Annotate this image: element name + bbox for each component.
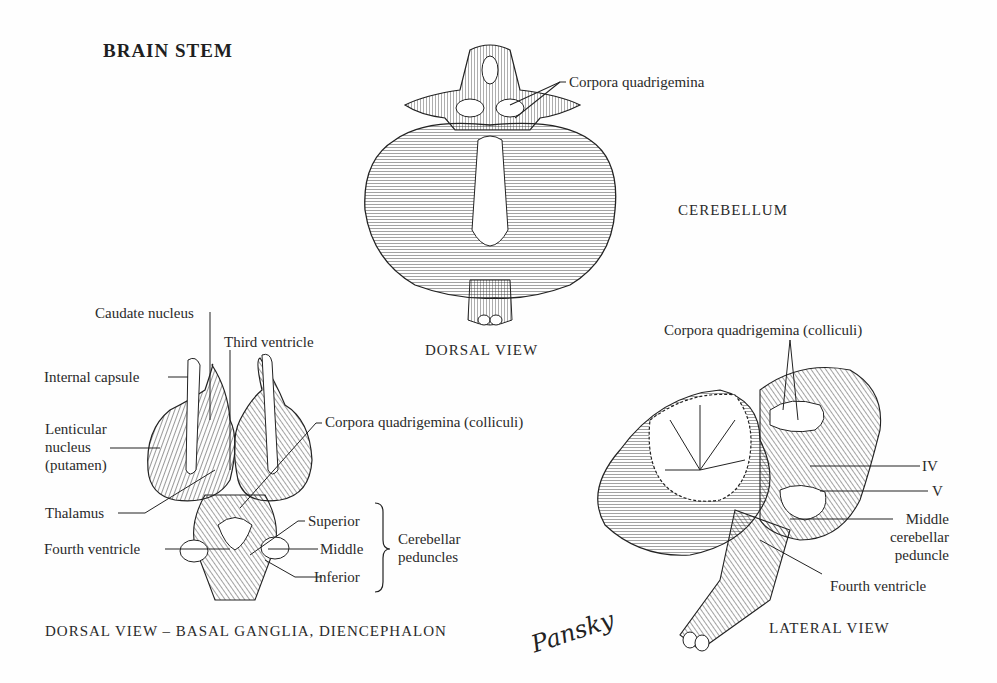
label-corpora-quadrigemina-top: Corpora quadrigemina: [569, 74, 704, 91]
label-lenticular-3: (putamen): [45, 457, 107, 474]
label-caudate-nucleus: Caudate nucleus: [95, 305, 194, 322]
section-label-cerebellum: CEREBELLUM: [678, 202, 788, 219]
plate-title: BRAIN STEM: [103, 40, 233, 62]
label-iv-nerve: IV: [922, 458, 938, 475]
label-corpora-quadrigemina-left: Corpora quadrigemina (colliculi): [325, 414, 523, 431]
caption-dorsal-view: DORSAL VIEW: [425, 342, 538, 359]
label-fourth-ventricle-left: Fourth ventricle: [44, 541, 140, 558]
caption-dorsal-basal-ganglia: DORSAL VIEW – BASAL GANGLIA, DIENCEPHALO…: [45, 623, 447, 640]
label-mcp-3: peduncle: [860, 547, 949, 564]
label-mcp-2: cerebellar: [860, 529, 949, 546]
label-mcp-1: Middle: [860, 511, 949, 528]
label-lenticular-1: Lenticular: [45, 421, 107, 438]
label-v-nerve: V: [932, 483, 943, 500]
label-thalamus: Thalamus: [45, 505, 104, 522]
label-superior-peduncle: Superior: [308, 513, 360, 530]
label-cerebellar-peduncles-2: peduncles: [398, 549, 458, 566]
lateral-view-drawing: [598, 340, 928, 651]
label-corpora-quadrigemina-lateral: Corpora quadrigemina (colliculi): [664, 322, 862, 339]
label-internal-capsule: Internal capsule: [44, 369, 139, 386]
caption-lateral-view: LATERAL VIEW: [769, 620, 890, 637]
label-inferior-peduncle: Inferior: [314, 569, 360, 586]
label-lenticular-2: nucleus: [45, 439, 91, 456]
label-middle-peduncle: Middle: [320, 541, 363, 558]
label-cerebellar-peduncles-1: Cerebellar: [398, 531, 460, 548]
label-third-ventricle: Third ventricle: [224, 334, 314, 351]
brain-stem-plate: BRAIN STEM Corpora quadrigemina CEREBELL…: [0, 0, 997, 683]
label-fourth-ventricle-lateral: Fourth ventricle: [830, 578, 926, 595]
